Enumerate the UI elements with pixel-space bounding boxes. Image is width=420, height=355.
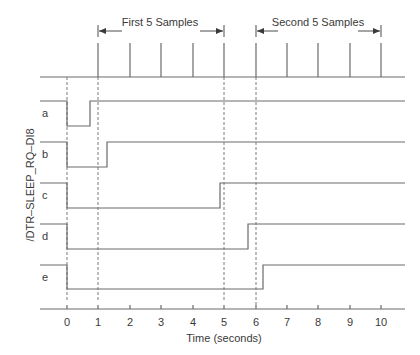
time-axis — [40, 305, 405, 309]
tick-label: 6 — [253, 316, 259, 328]
signal-c-label: c — [42, 189, 48, 201]
signal-e-label: e — [42, 271, 48, 283]
right-arrowhead-icon — [216, 28, 223, 34]
tick-label: 7 — [284, 316, 290, 328]
left-arrowhead-icon — [99, 28, 106, 34]
signal-c-trace — [40, 183, 405, 208]
x-axis-label: Time (seconds) — [186, 332, 261, 344]
dashed-time-markers — [67, 77, 256, 305]
y-axis-label: /DTR–SLEEP_RQ–DI8 — [24, 128, 36, 241]
tick-label: 2 — [127, 316, 133, 328]
tick-label: 3 — [158, 316, 164, 328]
tick-label: 10 — [375, 316, 387, 328]
signal-a-label: a — [42, 107, 49, 119]
signal-a-trace — [40, 101, 405, 126]
signal-d-label: d — [42, 230, 48, 242]
tick-label: 4 — [190, 316, 196, 328]
first-5-samples-label: First 5 Samples — [122, 16, 199, 28]
timing-diagram: First 5 Samples Second 5 Samples — [0, 0, 420, 355]
tick-label: 8 — [315, 316, 321, 328]
signal-b-trace — [40, 142, 405, 167]
tick-label: 0 — [64, 316, 70, 328]
right-arrowhead-icon — [373, 28, 380, 34]
tick-label: 9 — [347, 316, 353, 328]
left-arrowhead-icon — [257, 28, 264, 34]
signal-b-label: b — [42, 148, 48, 160]
signal-e-trace — [40, 265, 405, 289]
time-axis-tick-labels: 0 1 2 3 4 5 6 7 8 9 10 — [64, 316, 387, 328]
tick-label: 1 — [95, 316, 101, 328]
second-5-samples-label: Second 5 Samples — [272, 16, 365, 28]
tick-label: 5 — [221, 316, 227, 328]
sample-clock-trace — [40, 43, 405, 77]
signal-d-trace — [40, 224, 405, 249]
